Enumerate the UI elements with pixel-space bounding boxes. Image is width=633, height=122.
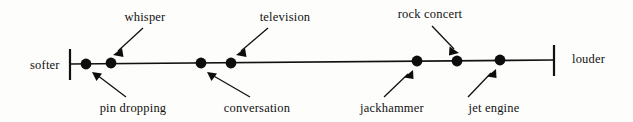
- pointer-arrowhead: [92, 72, 102, 81]
- item-label: pin dropping: [100, 101, 167, 115]
- marker-dot: [226, 58, 237, 69]
- marker-dot: [495, 55, 506, 66]
- item-label: jet engine: [468, 101, 520, 115]
- left-end-label: softer: [30, 58, 60, 72]
- pointer-arrowhead: [449, 47, 459, 56]
- item-label: jackhammer: [359, 101, 424, 115]
- item-label: conversation: [224, 101, 291, 115]
- scale-axis-line: [70, 60, 554, 64]
- pointer-arrowhead: [236, 48, 247, 57]
- loudness-scale-svg: softer louder pin dropping whisper conve…: [0, 0, 633, 122]
- marker-dot: [106, 58, 117, 69]
- pointer-line: [212, 75, 250, 97]
- pointer-arrowhead: [487, 69, 497, 78]
- marker-dot: [196, 58, 207, 69]
- marker-dot: [452, 56, 463, 67]
- marker-dot: [412, 56, 423, 67]
- pointer-line: [118, 28, 143, 51]
- loudness-scale-figure: softer louder pin dropping whisper conve…: [0, 0, 633, 122]
- marker-dot: [81, 59, 92, 70]
- item-label: television: [260, 10, 311, 24]
- pointer-arrowhead: [113, 48, 124, 57]
- pointer-line: [97, 75, 126, 97]
- item-label: rock concert: [398, 7, 463, 21]
- right-end-label: louder: [572, 52, 606, 66]
- item-label: whisper: [125, 10, 167, 24]
- pointer-arrowhead: [404, 70, 414, 79]
- pointer-line: [468, 73, 491, 97]
- pointer-line: [241, 28, 268, 51]
- pointer-line: [432, 26, 454, 49]
